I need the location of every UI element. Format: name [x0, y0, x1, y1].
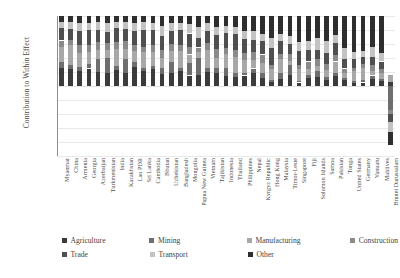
bar-segment [178, 16, 183, 23]
bar-column[interactable] [132, 16, 137, 156]
bar-column[interactable] [324, 16, 329, 156]
legend-item[interactable]: Manufacturing [247, 236, 350, 245]
bar-segment [77, 71, 82, 86]
legend-item[interactable]: Mining [149, 236, 246, 245]
bar-segment [379, 16, 384, 53]
bar-segment [178, 71, 183, 86]
x-axis-tick-label: Myanmar [64, 158, 70, 182]
bar-segment [87, 45, 92, 52]
bar-segment [224, 33, 229, 48]
bar-segment [77, 31, 82, 45]
bar-segment [242, 60, 247, 73]
bar-column[interactable] [96, 16, 101, 156]
x-axis-tick-label: Cambodia [155, 158, 161, 183]
bar-column[interactable] [214, 16, 219, 156]
bar-segment [114, 49, 119, 66]
bar-segment [160, 58, 165, 68]
bar-segment [315, 50, 320, 60]
bar-column[interactable] [205, 16, 210, 156]
bar-segment [278, 59, 283, 73]
bar-segment [288, 36, 293, 44]
x-axis-tick-label: Lao PDR [137, 158, 143, 181]
bar-column[interactable] [187, 16, 192, 156]
bar-column[interactable] [269, 16, 274, 156]
bar-column[interactable] [114, 16, 119, 156]
bar-column[interactable] [260, 16, 265, 156]
bar-segment [214, 16, 219, 27]
x-axis-tick-label: India [119, 158, 125, 171]
bar-segment [269, 16, 274, 38]
bar-segment [196, 38, 201, 48]
bar-segment [260, 78, 265, 86]
bar-segment [141, 30, 146, 47]
bar-segment [160, 50, 165, 58]
bar-segment [105, 73, 110, 86]
bar-segment [352, 71, 357, 81]
bar-segment [169, 16, 174, 23]
x-axis-tick-label: Turkmenistan [110, 158, 116, 192]
bar-segment [297, 42, 302, 51]
bar-segment [315, 59, 320, 65]
bar-segment [205, 16, 210, 23]
bar-segment [151, 52, 156, 66]
legend-label: Trade [71, 250, 88, 259]
bar-column[interactable] [68, 16, 73, 156]
bar-segment [96, 30, 101, 42]
bar-segment [68, 22, 73, 29]
bar-segment [205, 72, 210, 86]
bar-column[interactable] [59, 16, 64, 156]
bar-column[interactable] [87, 16, 92, 156]
legend-item[interactable]: Agriculture [62, 236, 149, 245]
bar-segment [370, 47, 375, 57]
bar-segment [196, 75, 201, 86]
bar-column[interactable] [352, 16, 357, 156]
bar-column[interactable] [306, 16, 311, 156]
bar-column[interactable] [151, 16, 156, 156]
bar-column[interactable] [169, 16, 174, 156]
bar-segment [333, 62, 338, 73]
bar-segment [114, 70, 119, 86]
x-axis-tick-label: Armenia [82, 158, 88, 180]
bar-column[interactable] [251, 16, 256, 156]
legend-item[interactable]: Transport [150, 250, 248, 259]
bar-column[interactable] [315, 16, 320, 156]
bar-segment [105, 16, 110, 23]
bar-segment [278, 79, 283, 86]
x-axis-tick-label: Singapore [301, 158, 307, 183]
x-axis-tick-label: Mongolia [192, 158, 198, 182]
bar-segment [306, 75, 311, 79]
bar-segment [214, 49, 219, 58]
legend-item[interactable]: Trade [62, 250, 150, 259]
legend-item[interactable]: Other [248, 250, 274, 259]
bar-segment [205, 31, 210, 44]
bar-column[interactable] [297, 16, 302, 156]
bar-column[interactable] [333, 16, 338, 156]
bar-column[interactable] [196, 16, 201, 156]
bar-column[interactable] [224, 16, 229, 156]
legend-swatch-icon [62, 238, 67, 243]
bar-column[interactable] [288, 16, 293, 156]
bar-column[interactable] [233, 16, 238, 156]
bar-column[interactable] [160, 16, 165, 156]
bar-column[interactable] [77, 16, 82, 156]
bar-column[interactable] [342, 16, 347, 156]
bar-column[interactable] [278, 16, 283, 156]
bar-column[interactable] [123, 16, 128, 156]
bar-segment [379, 69, 384, 74]
legend-item[interactable]: Construction [350, 236, 398, 245]
bar-column[interactable] [141, 16, 146, 156]
x-axis-tick-label: Fiji [311, 158, 317, 167]
bar-segment [187, 24, 192, 33]
bar-column[interactable] [178, 16, 183, 156]
x-axis-tick-label: Papua New Guinea [201, 158, 207, 206]
bar-segment [132, 51, 137, 62]
bar-column[interactable] [370, 16, 375, 156]
bar-column[interactable] [361, 16, 366, 156]
bar-segment [132, 62, 137, 67]
bar-column[interactable] [379, 16, 384, 156]
bar-segment [379, 81, 384, 86]
bar-column[interactable] [105, 16, 110, 156]
bar-segment [214, 68, 219, 74]
bar-column[interactable] [388, 16, 393, 156]
bar-column[interactable] [242, 16, 247, 156]
